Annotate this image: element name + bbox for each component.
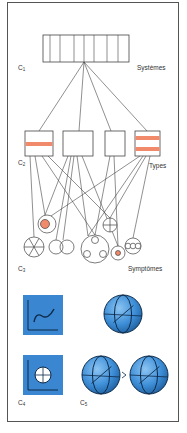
orange-band [26, 142, 53, 146]
link-line [84, 62, 111, 131]
link-line [84, 62, 147, 131]
symptom-double-circle [49, 240, 74, 254]
chart-panel-circle [23, 355, 63, 395]
orange-dot-icon [41, 220, 50, 229]
label-types: Types [149, 163, 166, 170]
type-box-outline [63, 131, 93, 156]
chart-panel-curve [23, 295, 63, 335]
type-box-outline [135, 131, 160, 156]
type-box-3 [105, 131, 125, 156]
sphere-right [130, 356, 168, 394]
label-c2: C2 [18, 160, 25, 168]
link-line [133, 156, 150, 238]
link-line [48, 156, 110, 218]
symptom-circle-with-three-holes [81, 235, 109, 263]
symptom-circle-with-cross [103, 218, 117, 232]
sphere-top [104, 295, 142, 333]
link-line [45, 156, 140, 220]
type-box-4 [135, 131, 160, 156]
orange-band [136, 136, 160, 140]
symptom-spoked-wheel [24, 237, 44, 257]
double-arrow-icon [122, 372, 126, 378]
link-line [35, 156, 45, 215]
symptom-small-circle-with-orange-dot [111, 246, 125, 260]
symptom-circle-with-orange-dot [38, 215, 56, 233]
orange-band [136, 147, 160, 151]
link-line [30, 156, 34, 237]
type-box-outline [105, 131, 125, 156]
systems-to-types-links [39, 62, 147, 131]
label-c3: C3 [18, 266, 25, 274]
link-line [114, 156, 118, 246]
type-box-2 [63, 131, 93, 156]
link-line [77, 156, 88, 236]
orange-dot-icon [116, 251, 121, 256]
symptom-triple-ring [125, 238, 141, 254]
label-symptoms: Symptômes [128, 266, 162, 273]
link-line [39, 62, 84, 131]
label-c5: C5 [80, 400, 87, 408]
label-systems: Systèmes [137, 65, 166, 72]
label-c4: C4 [18, 400, 25, 408]
label-c1: C1 [18, 65, 25, 73]
systems-box-outline [43, 35, 129, 62]
symptoms-group [24, 215, 141, 263]
types-boxes [25, 131, 160, 156]
link-line [79, 62, 84, 131]
systems-box [43, 35, 129, 62]
type-box-1 [25, 131, 53, 156]
sphere-left [82, 356, 120, 394]
spheres-group [82, 295, 168, 394]
